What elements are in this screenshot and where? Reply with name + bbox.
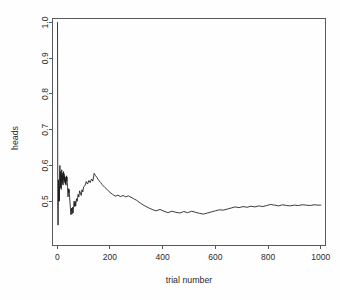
chart-background [0,0,340,300]
x-tick-label: 200 [103,252,117,262]
x-tick-label: 400 [156,252,170,262]
y-tick-label: 0.9 [41,52,51,64]
y-tick-label: 0.5 [41,195,51,207]
line-chart: 0.50.60.70.80.91.0 02004006008001000 tri… [0,0,340,300]
y-tick-label: 0.7 [41,124,51,136]
x-tick-label: 1000 [311,252,330,262]
y-tick-label: 1.0 [41,16,51,28]
y-tick-label: 0.8 [41,88,51,100]
x-tick-label: 600 [208,252,222,262]
x-tick-label: 0 [55,252,60,262]
chart-figure: 0.50.60.70.80.91.0 02004006008001000 tri… [0,0,340,300]
x-tick-label: 800 [261,252,275,262]
x-axis-title: trial number [166,275,213,285]
y-axis-title: heads [10,125,20,150]
y-tick-label: 0.6 [41,159,51,171]
